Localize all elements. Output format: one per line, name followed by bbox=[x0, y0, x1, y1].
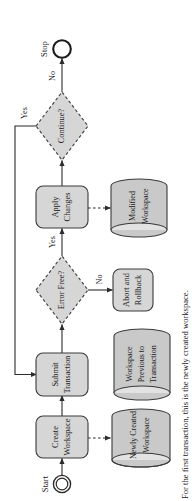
node-continue-label: Continue? bbox=[57, 109, 66, 144]
flowchart-svg: Yes No No Yes bbox=[0, 0, 194, 501]
node-newly-created-workspace-label-line2: Workspace bbox=[142, 417, 151, 453]
edge-label-continue-no: No bbox=[48, 71, 57, 81]
node-modified-workspace[interactable]: Modified Workspace bbox=[111, 179, 167, 237]
node-workspace-previous-label-line3: Transaction bbox=[149, 345, 158, 382]
node-continue-decision[interactable]: Continue? bbox=[36, 92, 88, 160]
edge-errorfree-no-to-abort: No bbox=[88, 274, 113, 290]
node-start[interactable]: Start bbox=[40, 475, 71, 492]
node-stop[interactable]: Stop bbox=[39, 40, 71, 58]
node-workspace-previous[interactable]: Workspace Previous to Transaction bbox=[114, 329, 170, 400]
edge-label-continue-yes: Yes bbox=[20, 107, 29, 119]
node-abort-rollback[interactable]: Abort and Rollback bbox=[113, 269, 153, 311]
node-submit-transaction[interactable]: Submit Transaction bbox=[36, 353, 88, 396]
node-apply-changes-label-line2: Changes bbox=[63, 193, 72, 222]
node-modified-workspace-label-line1: Modified bbox=[128, 191, 137, 221]
node-apply-changes[interactable]: Apply Changes bbox=[36, 186, 88, 228]
node-newly-created-workspace[interactable]: Newly Created Workspace bbox=[112, 409, 170, 467]
edge-errorfree-yes-to-apply: Yes bbox=[48, 229, 62, 257]
rotated-figure-wrapper: Yes No No Yes bbox=[0, 0, 194, 501]
node-create-workspace-label-line1: Create bbox=[51, 426, 60, 448]
edge-continue-yes-loop: Yes bbox=[15, 107, 37, 374]
node-workspace-previous-label-line1: Workspace bbox=[125, 346, 134, 382]
node-create-workspace-label-line2: Workspace bbox=[63, 418, 72, 455]
node-apply-changes-label-line1: Apply bbox=[51, 196, 60, 218]
node-abort-rollback-label-line2: Rollback bbox=[134, 274, 143, 305]
edge-continue-no-to-stop: No bbox=[48, 59, 62, 93]
edge-label-error-free-yes: Yes bbox=[48, 236, 57, 248]
node-submit-transaction-label-line2: Transaction bbox=[63, 356, 72, 393]
node-stop-label: Stop bbox=[39, 41, 49, 57]
node-create-workspace[interactable]: Create Workspace bbox=[36, 416, 88, 458]
node-newly-created-workspace-label-line1: Newly Created bbox=[129, 411, 138, 459]
node-workspace-previous-label-line2: Previous to bbox=[137, 346, 146, 382]
node-modified-workspace-label-line2: Workspace bbox=[141, 188, 150, 224]
edge-label-error-free-no: No bbox=[95, 274, 104, 284]
node-error-free-label: Error Free? bbox=[57, 271, 66, 310]
node-submit-transaction-label-line1: Submit bbox=[51, 362, 60, 387]
node-start-label: Start bbox=[40, 475, 50, 492]
figure-caption-text: For the first transaction, this is the n… bbox=[180, 290, 190, 499]
node-error-free-decision[interactable]: Error Free? bbox=[36, 256, 88, 324]
flowchart-canvas: Yes No No Yes bbox=[0, 0, 194, 501]
node-abort-rollback-label-line1: Abort and bbox=[122, 272, 131, 307]
figure-caption: For the first transaction, this is the n… bbox=[180, 290, 190, 499]
